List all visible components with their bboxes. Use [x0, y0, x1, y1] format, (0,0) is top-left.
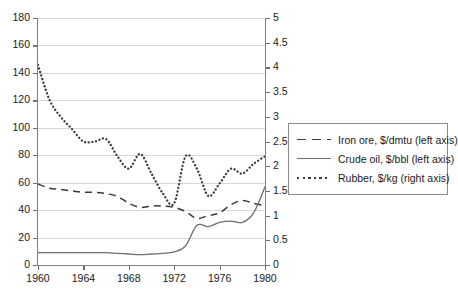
axis-element — [33, 128, 37, 129]
legend-swatch-dashed-icon — [296, 134, 332, 146]
axis-element — [266, 142, 270, 143]
legend-swatch-solid-icon — [296, 153, 332, 165]
legend-label-iron-ore: Iron ore, $/dmtu (left axis) — [338, 134, 458, 146]
axis-element — [266, 67, 270, 68]
axis-element — [174, 266, 175, 270]
tick-label: 0 — [0, 258, 30, 270]
axis-element — [266, 18, 270, 19]
axis-element — [266, 240, 270, 241]
tick-label: 40 — [0, 203, 30, 215]
tick-label: 1976 — [200, 272, 240, 284]
legend-swatch-dotted-icon — [296, 172, 332, 184]
axis-element — [265, 266, 266, 270]
tick-label: 140 — [0, 66, 30, 78]
tick-label: 0 — [273, 258, 301, 270]
axis-element — [33, 238, 37, 239]
axis-element — [266, 191, 270, 192]
tick-label: 1960 — [18, 272, 58, 284]
legend-item: Iron ore, $/dmtu (left axis) — [296, 130, 440, 149]
axis-element — [33, 183, 37, 184]
axis-element — [33, 45, 37, 46]
tick-label: 20 — [0, 231, 30, 243]
axis-element — [266, 43, 270, 44]
tick-label: 1972 — [154, 272, 194, 284]
tick-label: 1980 — [245, 272, 285, 284]
axis-element — [266, 216, 270, 217]
tick-label: 180 — [0, 11, 30, 23]
axis-element — [33, 265, 37, 266]
tick-label: 80 — [0, 148, 30, 160]
series-line-solid — [38, 187, 265, 255]
axis-element — [33, 100, 37, 101]
tick-label: 0.5 — [273, 233, 301, 245]
tick-label: 120 — [0, 93, 30, 105]
axis-element — [38, 266, 39, 270]
axis-element — [83, 266, 84, 270]
tick-label: 60 — [0, 176, 30, 188]
plot-area — [38, 18, 265, 265]
chart-legend: Iron ore, $/dmtu (left axis) Crude oil, … — [288, 123, 448, 195]
series-lines — [38, 18, 265, 265]
axis-element — [37, 18, 38, 265]
series-line-dashed — [38, 184, 265, 218]
axis-element — [220, 266, 221, 270]
series-line-dotted — [38, 65, 265, 205]
tick-label: 3 — [273, 110, 301, 122]
axis-element — [266, 166, 270, 167]
tick-label: 1 — [273, 209, 301, 221]
tick-label: 4.5 — [273, 36, 301, 48]
tick-label: 1964 — [63, 272, 103, 284]
tick-label: 160 — [0, 38, 30, 50]
legend-label-crude-oil: Crude oil, $/bbl (left axis) — [338, 153, 454, 165]
legend-label-rubber: Rubber, $/kg (right axis) — [338, 172, 449, 184]
tick-label: 1968 — [109, 272, 149, 284]
axis-element — [266, 92, 270, 93]
tick-label: 3.5 — [273, 85, 301, 97]
axis-element — [266, 265, 270, 266]
axis-element — [33, 18, 37, 19]
tick-label: 5 — [273, 11, 301, 23]
legend-item: Crude oil, $/bbl (left axis) — [296, 149, 440, 168]
tick-label: 100 — [0, 121, 30, 133]
axis-element — [33, 155, 37, 156]
axis-element — [266, 117, 270, 118]
axis-element — [33, 210, 37, 211]
axis-element — [37, 265, 266, 266]
tick-label: 4 — [273, 60, 301, 72]
legend-item: Rubber, $/kg (right axis) — [296, 168, 440, 187]
axis-element — [129, 266, 130, 270]
axis-element — [33, 73, 37, 74]
